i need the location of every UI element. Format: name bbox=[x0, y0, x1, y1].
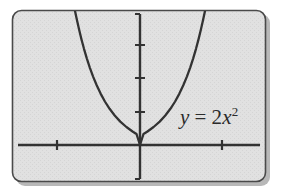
equation-variable: x bbox=[222, 105, 232, 129]
equation-lhs: y bbox=[180, 105, 190, 129]
figure-root: y=2x2 bbox=[0, 0, 281, 192]
equation-operator: = bbox=[195, 105, 207, 129]
equation-coefficient: 2 bbox=[212, 105, 223, 129]
equation-exponent: 2 bbox=[232, 104, 239, 119]
graph-canvas bbox=[0, 0, 281, 192]
equation-label: y=2x2 bbox=[180, 107, 239, 128]
